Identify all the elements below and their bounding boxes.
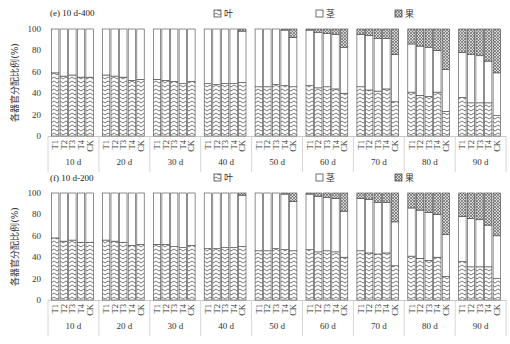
bar-segment-chevron xyxy=(383,89,390,136)
bar-segment-blank xyxy=(204,29,211,84)
bar-segment-chevron xyxy=(391,102,398,136)
bar-segment-blank xyxy=(179,29,186,84)
bar-segment-blank xyxy=(272,193,279,249)
category-label: CK xyxy=(136,139,146,152)
bar-segment-chevron xyxy=(315,252,322,300)
bar-segment-crosshatch xyxy=(315,193,322,196)
bar-segment-chevron xyxy=(137,79,144,136)
bar-segment-crosshatch xyxy=(290,193,297,202)
y-tick-label: 40 xyxy=(32,88,42,98)
bar-segment-blank xyxy=(204,193,211,249)
bar-segment-blank xyxy=(306,194,313,250)
bar-segment-crosshatch xyxy=(366,29,373,35)
bar-segment-blank xyxy=(52,193,59,238)
bar-segment-blank xyxy=(188,193,195,245)
bar-segment-chevron xyxy=(162,80,169,136)
legend-swatch-chevron xyxy=(214,10,221,17)
bar-segment-blank xyxy=(476,220,483,267)
category-label: CK xyxy=(339,139,349,152)
bar-segment-chevron xyxy=(213,249,220,300)
bar-segment-blank xyxy=(221,193,228,248)
bar-segment-chevron xyxy=(340,257,347,300)
bar-segment-blank xyxy=(171,193,178,247)
bar-segment-blank xyxy=(383,203,390,253)
bar-segment-chevron xyxy=(204,84,211,136)
bar-segment-blank xyxy=(171,29,178,81)
bar-segment-blank xyxy=(86,193,93,242)
bar-segment-crosshatch xyxy=(416,193,423,210)
bar-segment-chevron xyxy=(264,251,271,300)
bar-segment-blank xyxy=(162,29,169,80)
bar-segment-chevron xyxy=(239,83,246,137)
bar-segment-blank xyxy=(102,193,109,240)
category-label: CK xyxy=(339,303,349,316)
bar-segment-blank xyxy=(120,193,127,242)
group-label: 80 d xyxy=(422,157,438,167)
bar-segment-crosshatch xyxy=(493,29,500,73)
bar-segment-chevron xyxy=(315,88,322,136)
bar-segment-chevron xyxy=(323,87,330,136)
bar-segment-blank xyxy=(69,29,76,75)
category-label: CK xyxy=(186,303,196,316)
bar-segment-blank xyxy=(128,193,135,245)
category-label: CK xyxy=(390,139,400,152)
bar-segment-blank xyxy=(281,30,288,86)
bar-segment-crosshatch xyxy=(383,29,390,39)
bar-segment-chevron xyxy=(272,249,279,300)
panel-e: (e) 10 d-400各器官分配比例(%)020406080100叶茎果10 … xyxy=(9,8,506,172)
legend-label: 茎 xyxy=(326,8,335,19)
category-label: CK xyxy=(441,303,451,316)
bar-segment-chevron xyxy=(290,87,297,136)
bar-segment-chevron xyxy=(120,242,127,300)
bar-segment-chevron xyxy=(255,251,262,300)
bar-segment-blank xyxy=(306,30,313,86)
bar-segment-chevron xyxy=(213,85,220,136)
bar-segment-blank xyxy=(120,29,127,77)
bar-segment-blank xyxy=(467,55,474,103)
chart-canvas: (e) 10 d-400各器官分配比例(%)020406080100叶茎果10 … xyxy=(0,0,510,344)
bar-segment-blank xyxy=(239,31,246,82)
bar-segment-blank xyxy=(255,193,262,251)
bar-segment-chevron xyxy=(434,257,441,300)
bar-segment-blank xyxy=(323,33,330,87)
legend-label: 果 xyxy=(405,173,414,183)
bar-segment-crosshatch xyxy=(476,193,483,220)
bar-segment-chevron xyxy=(69,240,76,300)
bar-segment-crosshatch xyxy=(391,193,398,222)
bar-segment-blank xyxy=(77,29,84,77)
bar-segment-chevron xyxy=(171,247,178,301)
bar-segment-chevron xyxy=(306,86,313,136)
bar-segment-crosshatch xyxy=(383,193,390,203)
bar-segment-crosshatch xyxy=(493,193,500,236)
bar-segment-crosshatch xyxy=(357,29,364,34)
bar-segment-blank xyxy=(374,39,381,91)
group-label: 30 d xyxy=(167,157,183,167)
legend-label: 叶 xyxy=(224,173,233,183)
bar-segment-blank xyxy=(493,73,500,116)
bar-segment-blank xyxy=(230,29,237,84)
bar-segment-chevron xyxy=(416,258,423,300)
group-label: 20 d xyxy=(116,157,132,167)
bar-segment-chevron xyxy=(281,250,288,300)
bar-segment-chevron xyxy=(77,77,84,136)
bar-segment-blank xyxy=(188,29,195,81)
bar-segment-blank xyxy=(153,193,160,244)
bar-segment-chevron xyxy=(493,279,500,300)
bar-segment-chevron xyxy=(69,75,76,136)
category-label: CK xyxy=(136,303,146,316)
y-tick-label: 0 xyxy=(37,295,42,305)
legend-swatch-blank xyxy=(316,10,323,17)
bar-segment-blank xyxy=(315,196,322,252)
bar-segment-chevron xyxy=(332,252,339,300)
category-label: CK xyxy=(186,139,196,152)
y-tick-label: 40 xyxy=(32,252,42,262)
bar-segment-chevron xyxy=(357,251,364,300)
bar-segment-chevron xyxy=(60,76,67,136)
bar-segment-blank xyxy=(221,29,228,84)
bar-segment-blank xyxy=(459,217,466,262)
bar-segment-blank xyxy=(77,193,84,242)
bar-segment-chevron xyxy=(476,267,483,300)
bar-segment-chevron xyxy=(264,87,271,136)
bar-segment-chevron xyxy=(467,103,474,136)
bar-segment-blank xyxy=(425,47,432,96)
